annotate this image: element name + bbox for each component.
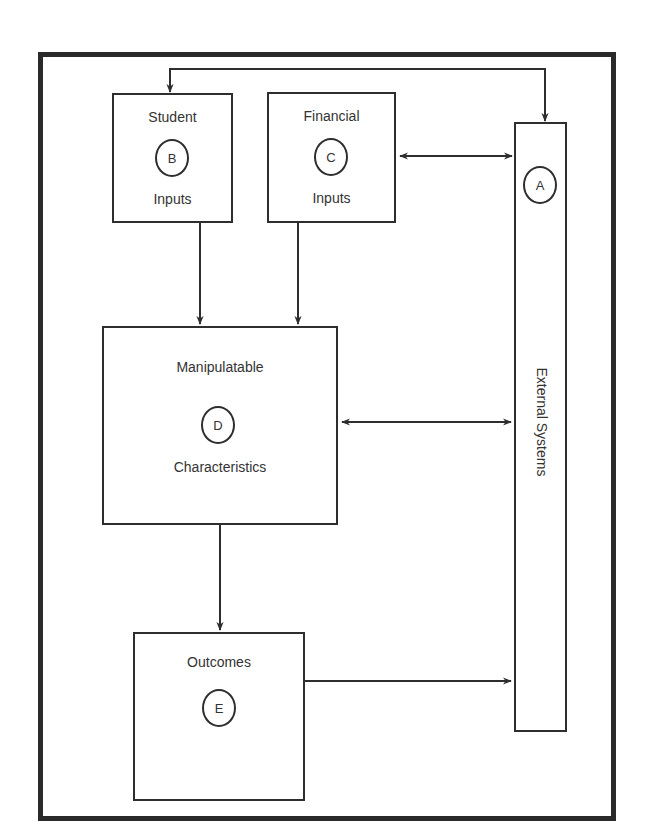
node-id-badge-a: A [523,166,557,204]
node-outcomes: Outcomes E [133,632,305,801]
financial-title: Financial [269,108,394,124]
node-financial-inputs: Financial C Inputs [267,92,396,223]
student-subtitle: Inputs [114,191,231,207]
node-id-badge-b: B [155,139,189,177]
financial-subtitle: Inputs [269,190,394,206]
outcomes-title: Outcomes [135,654,303,670]
node-student-inputs: Student B Inputs [112,93,233,223]
node-id-badge-d: D [201,406,235,444]
node-id-badge-c: C [314,138,348,176]
external-systems-label: External Systems [534,362,550,482]
manipulatable-subtitle: Characteristics [104,459,336,475]
student-title: Student [114,109,231,125]
manipulatable-title: Manipulatable [104,359,336,375]
node-id-badge-e: E [202,689,236,727]
node-manipulatable-characteristics: Manipulatable D Characteristics [102,326,338,525]
